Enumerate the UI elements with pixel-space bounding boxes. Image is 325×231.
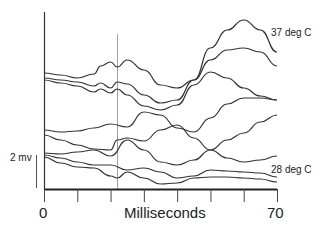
label-28-deg-c: 28 deg C (271, 164, 312, 175)
x-axis-title: Milliseconds (124, 204, 206, 221)
traces (44, 20, 277, 184)
trace-line-8 (44, 157, 277, 184)
x-axis-ticks (45, 189, 278, 202)
scale-bar-label: 2 mv (10, 152, 32, 163)
label-37-deg-c: 37 deg C (271, 27, 312, 38)
x-tick-label-end: 70 (267, 204, 284, 221)
trace-line-6 (44, 115, 277, 165)
x-tick-label-start: 0 (39, 204, 47, 221)
trace-line-2 (44, 48, 277, 103)
trace-line-1 (44, 20, 277, 88)
